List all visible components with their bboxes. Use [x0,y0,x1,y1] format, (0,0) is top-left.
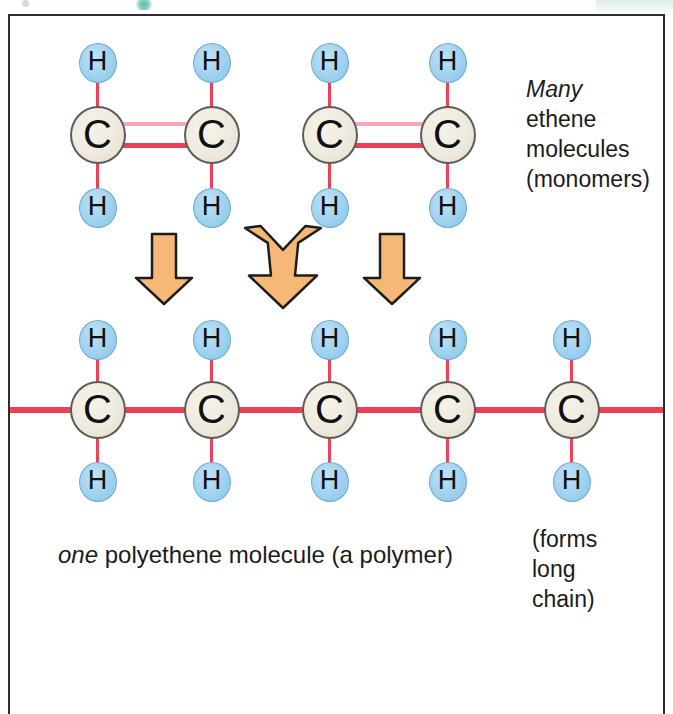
hydrogen-atom-monomer-2-4: H [429,188,467,228]
carbon-atom-polymer-2: C [184,381,240,439]
caption-monomers-line1: Many [526,76,582,102]
hydrogen-atom-polymer-bottom-5: H [553,462,591,502]
caption-chain-line2: long [532,556,575,582]
hydrogen-atom-polymer-top-1: H [79,320,117,360]
caption-monomers-line4: (monomers) [526,166,650,192]
caption-forms-long-chain: (formslongchain) [532,524,597,614]
hydrogen-atom-monomer-1-1: H [79,43,117,83]
caption-polymer-rest: polyethene molecule (a polymer) [98,541,453,568]
caption-monomers-line3: molecules [526,136,630,162]
hydrogen-atom-monomer-2-1: H [311,43,349,83]
carbon-label: C [557,389,586,429]
hydrogen-atom-monomer-1-3: H [79,188,117,228]
hydrogen-atom-polymer-top-4: H [429,320,467,360]
hydrogen-label: H [438,48,458,75]
carbon-label: C [315,389,344,429]
carbon-atom-monomer-2-1: C [302,106,358,164]
carbon-atom-polymer-4: C [420,381,476,439]
hydrogen-label: H [202,467,222,494]
carbon-atom-polymer-5: C [544,381,600,439]
carbon-label: C [197,389,226,429]
hydrogen-label: H [202,48,222,75]
scan-artifact-green-mark [136,0,152,10]
reaction-arrow-middle [243,224,323,310]
reaction-arrow-middle-glyph [243,224,323,310]
carbon-atom-polymer-1: C [70,381,126,439]
carbon-label: C [83,114,112,154]
caption-monomers: Manyethenemolecules(monomers) [526,74,650,194]
reaction-arrow-right [362,232,422,306]
carbon-atom-monomer-2-2: C [420,106,476,164]
hydrogen-label: H [320,467,340,494]
hydrogen-label: H [320,48,340,75]
hydrogen-atom-polymer-bottom-3: H [311,462,349,502]
scan-artifact-green-wash [596,0,673,14]
hydrogen-atom-polymer-top-2: H [193,320,231,360]
reaction-arrow-left [134,232,194,306]
hydrogen-label: H [88,193,108,220]
hydrogen-atom-polymer-bottom-2: H [193,462,231,502]
hydrogen-atom-monomer-1-2: H [193,43,231,83]
hydrogen-label: H [438,467,458,494]
hydrogen-label: H [320,193,340,220]
hydrogen-atom-polymer-bottom-4: H [429,462,467,502]
carbon-atom-monomer-1-1: C [70,106,126,164]
scan-artifact-dot [22,0,29,7]
carbon-label: C [315,114,344,154]
caption-polymer-emphasis: one [58,541,98,568]
hydrogen-atom-monomer-2-2: H [429,43,467,83]
hydrogen-label: H [202,193,222,220]
caption-chain-line3: chain) [532,586,595,612]
carbon-label: C [433,114,462,154]
hydrogen-atom-polymer-top-3: H [311,320,349,360]
carbon-atom-monomer-1-2: C [184,106,240,164]
reaction-arrow-left-glyph [134,232,194,306]
carbon-atom-polymer-3: C [302,381,358,439]
hydrogen-label: H [88,48,108,75]
hydrogen-label: H [438,325,458,352]
hydrogen-atom-polymer-top-5: H [553,320,591,360]
caption-monomers-line2: ethene [526,106,596,132]
carbon-label: C [197,114,226,154]
hydrogen-label: H [320,325,340,352]
carbon-label: C [433,389,462,429]
caption-polymer: one polyethene molecule (a polymer) [58,540,453,570]
figure-frame: HHHHCCHHHHCC HHHHHHHHHHCCCCC Manyethenem… [8,14,665,714]
hydrogen-atom-polymer-bottom-1: H [79,462,117,502]
hydrogen-atom-monomer-2-3: H [311,188,349,228]
hydrogen-label: H [562,467,582,494]
hydrogen-label: H [438,193,458,220]
caption-chain-line1: (forms [532,526,597,552]
hydrogen-label: H [202,325,222,352]
carbon-label: C [83,389,112,429]
reaction-arrow-right-glyph [362,232,422,306]
hydrogen-label: H [562,325,582,352]
hydrogen-label: H [88,467,108,494]
hydrogen-label: H [88,325,108,352]
hydrogen-atom-monomer-1-4: H [193,188,231,228]
